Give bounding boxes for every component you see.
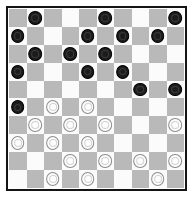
square-r9-c3[interactable] — [44, 152, 62, 170]
square-r7-c10[interactable] — [167, 116, 185, 134]
square-r3-c8[interactable] — [132, 45, 150, 63]
square-r6-c10[interactable] — [167, 98, 185, 116]
square-r6-c7[interactable] — [114, 98, 132, 116]
square-r4-c2[interactable] — [27, 63, 45, 81]
square-r5-c2[interactable] — [27, 81, 45, 99]
square-r10-c2[interactable] — [27, 170, 45, 188]
black-piece[interactable] — [63, 47, 77, 61]
square-r3-c7[interactable] — [114, 45, 132, 63]
black-piece[interactable] — [98, 11, 112, 25]
square-r8-c4[interactable] — [62, 134, 80, 152]
square-r9-c10[interactable] — [167, 152, 185, 170]
black-piece[interactable] — [81, 65, 95, 79]
square-r10-c8[interactable] — [132, 170, 150, 188]
black-piece[interactable] — [168, 11, 182, 25]
black-piece[interactable] — [11, 29, 25, 43]
square-r1-c5[interactable] — [79, 9, 97, 27]
square-r1-c7[interactable] — [114, 9, 132, 27]
square-r2-c8[interactable] — [132, 27, 150, 45]
square-r3-c6[interactable] — [97, 45, 115, 63]
square-r9-c6[interactable] — [97, 152, 115, 170]
white-piece[interactable] — [81, 100, 95, 114]
square-r4-c8[interactable] — [132, 63, 150, 81]
square-r9-c2[interactable] — [27, 152, 45, 170]
square-r10-c1[interactable] — [9, 170, 27, 188]
square-r1-c10[interactable] — [167, 9, 185, 27]
square-r1-c8[interactable] — [132, 9, 150, 27]
square-r9-c5[interactable] — [79, 152, 97, 170]
white-piece[interactable] — [168, 154, 182, 168]
square-r9-c8[interactable] — [132, 152, 150, 170]
black-piece[interactable] — [11, 100, 25, 114]
black-piece[interactable] — [28, 11, 42, 25]
square-r6-c6[interactable] — [97, 98, 115, 116]
white-piece[interactable] — [81, 136, 95, 150]
square-r5-c8[interactable] — [132, 81, 150, 99]
square-r6-c1[interactable] — [9, 98, 27, 116]
square-r8-c2[interactable] — [27, 134, 45, 152]
square-r6-c5[interactable] — [79, 98, 97, 116]
square-r5-c4[interactable] — [62, 81, 80, 99]
square-r8-c9[interactable] — [149, 134, 167, 152]
white-piece[interactable] — [11, 136, 25, 150]
square-r2-c5[interactable] — [79, 27, 97, 45]
white-piece[interactable] — [63, 154, 77, 168]
square-r5-c5[interactable] — [79, 81, 97, 99]
black-piece[interactable] — [116, 65, 130, 79]
square-r2-c6[interactable] — [97, 27, 115, 45]
square-r10-c6[interactable] — [97, 170, 115, 188]
white-piece[interactable] — [63, 118, 77, 132]
square-r8-c5[interactable] — [79, 134, 97, 152]
square-r7-c6[interactable] — [97, 116, 115, 134]
square-r4-c7[interactable] — [114, 63, 132, 81]
black-piece[interactable] — [11, 65, 25, 79]
square-r4-c10[interactable] — [167, 63, 185, 81]
square-r5-c9[interactable] — [149, 81, 167, 99]
black-piece[interactable] — [116, 29, 130, 43]
square-r3-c5[interactable] — [79, 45, 97, 63]
black-piece[interactable] — [98, 47, 112, 61]
square-r6-c9[interactable] — [149, 98, 167, 116]
black-piece[interactable] — [28, 47, 42, 61]
square-r8-c1[interactable] — [9, 134, 27, 152]
square-r7-c4[interactable] — [62, 116, 80, 134]
square-r10-c5[interactable] — [79, 170, 97, 188]
square-r5-c10[interactable] — [167, 81, 185, 99]
square-r2-c1[interactable] — [9, 27, 27, 45]
square-r1-c6[interactable] — [97, 9, 115, 27]
square-r8-c8[interactable] — [132, 134, 150, 152]
square-r3-c9[interactable] — [149, 45, 167, 63]
white-piece[interactable] — [46, 136, 60, 150]
square-r6-c2[interactable] — [27, 98, 45, 116]
white-piece[interactable] — [28, 118, 42, 132]
square-r7-c2[interactable] — [27, 116, 45, 134]
square-r1-c2[interactable] — [27, 9, 45, 27]
square-r10-c3[interactable] — [44, 170, 62, 188]
square-r2-c4[interactable] — [62, 27, 80, 45]
square-r6-c4[interactable] — [62, 98, 80, 116]
white-piece[interactable] — [46, 172, 60, 186]
square-r3-c10[interactable] — [167, 45, 185, 63]
square-r3-c1[interactable] — [9, 45, 27, 63]
white-piece[interactable] — [46, 100, 60, 114]
square-r2-c3[interactable] — [44, 27, 62, 45]
square-r10-c7[interactable] — [114, 170, 132, 188]
square-r3-c2[interactable] — [27, 45, 45, 63]
square-r7-c8[interactable] — [132, 116, 150, 134]
square-r1-c4[interactable] — [62, 9, 80, 27]
square-r4-c9[interactable] — [149, 63, 167, 81]
square-r7-c9[interactable] — [149, 116, 167, 134]
black-piece[interactable] — [133, 83, 147, 97]
square-r2-c7[interactable] — [114, 27, 132, 45]
square-r4-c5[interactable] — [79, 63, 97, 81]
white-piece[interactable] — [98, 154, 112, 168]
square-r3-c3[interactable] — [44, 45, 62, 63]
square-r6-c8[interactable] — [132, 98, 150, 116]
white-piece[interactable] — [168, 118, 182, 132]
square-r8-c3[interactable] — [44, 134, 62, 152]
square-r7-c1[interactable] — [9, 116, 27, 134]
square-r4-c3[interactable] — [44, 63, 62, 81]
square-r8-c6[interactable] — [97, 134, 115, 152]
black-piece[interactable] — [168, 83, 182, 97]
square-r3-c4[interactable] — [62, 45, 80, 63]
